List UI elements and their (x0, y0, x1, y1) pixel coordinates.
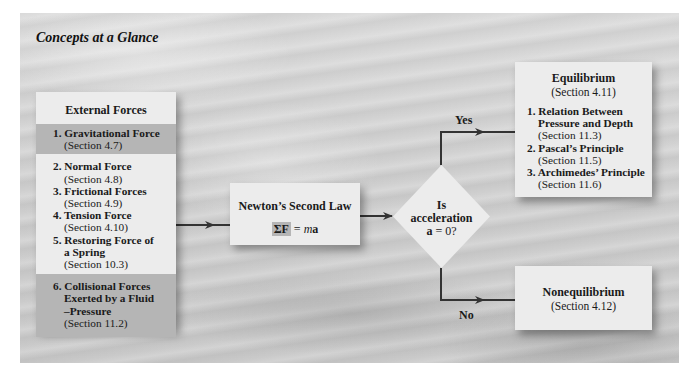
nonequilibrium-box: Nonequilibrium (Section 4.12) (515, 266, 652, 330)
decision-diamond: Is acceleration a = 0? (393, 165, 490, 268)
force-label-cont: Exerted by a Fluid (53, 292, 172, 304)
force-section: (Section 11.2) (53, 317, 172, 329)
force-label: 3. Frictional Forces (53, 185, 147, 197)
equilibrium-box: Equilibrium (Section 4.11) 1. Relation B… (515, 62, 652, 197)
force-section: (Section 4.9) (53, 197, 172, 209)
decision-line3: a = 0? (393, 225, 490, 238)
equilibrium-section: (Section 4.11) (515, 86, 652, 98)
force-section: (Section 4.10) (53, 221, 172, 233)
force-item-normal: 2. Normal Force (Section 4.8) (53, 160, 172, 184)
newton-formula: ΣF = ma (230, 222, 360, 237)
force-item-frictional: 3. Frictional Forces (Section 4.9) (53, 185, 172, 209)
nonequilibrium-section: (Section 4.12) (515, 300, 652, 312)
force-label: 2. Normal Force (53, 160, 132, 172)
force-label: 6. Collisional Forces (53, 280, 150, 292)
force-items-group: 2. Normal Force (Section 4.8) 3. Frictio… (36, 154, 176, 274)
force-label: 4. Tension Force (53, 209, 132, 221)
item-label: 3. Archimedes’ Principle (527, 166, 645, 178)
force-section: (Section 10.3) (53, 258, 172, 270)
force-label-cont: a Spring (53, 246, 172, 258)
external-forces-header: External Forces (36, 92, 176, 124)
force-label-cont2: –Pressure (53, 305, 172, 317)
newton-second-law-box: Newton’s Second Law ΣF = ma (230, 183, 360, 245)
formula-equals: = (291, 222, 304, 236)
arrow-yes-to-equilibrium (441, 132, 515, 165)
force-section: (Section 4.7) (53, 139, 172, 151)
decision-text: Is acceleration a = 0? (393, 199, 490, 238)
force-item-tension: 4. Tension Force (Section 4.10) (53, 209, 172, 233)
external-forces-box: External Forces 1. Gravitational Force (… (36, 92, 176, 330)
item-section: (Section 11.5) (527, 154, 652, 166)
force-label: 1. Gravitational Force (53, 127, 160, 139)
force-item-gravitational: 1. Gravitational Force (Section 4.7) (36, 124, 176, 154)
formula-m: m (304, 222, 313, 236)
arrow-no-to-nonequilibrium (441, 268, 515, 300)
item-label-cont: Pressure and Depth (527, 117, 652, 129)
item-section: (Section 11.6) (527, 178, 652, 190)
item-label: 1. Relation Between (527, 105, 623, 117)
equilibrium-list: 1. Relation Between Pressure and Depth (… (515, 105, 652, 190)
formula-a: a (312, 222, 318, 236)
item-label: 2. Pascal’s Principle (527, 142, 624, 154)
equilibrium-item: 3. Archimedes’ Principle (Section 11.6) (527, 166, 652, 190)
newton-title: Newton’s Second Law (230, 183, 360, 214)
nonequilibrium-title: Nonequilibrium (515, 266, 652, 300)
decision-eq: = 0? (432, 224, 456, 238)
yes-label: Yes (455, 113, 472, 128)
equilibrium-item: 2. Pascal’s Principle (Section 11.5) (527, 142, 652, 166)
force-item-spring: 5. Restoring Force of a Spring (Section … (53, 234, 172, 271)
force-label: 5. Restoring Force of (53, 234, 154, 246)
formula-sigma-f: ΣF (272, 222, 291, 236)
force-item-collisional: 6. Collisional Forces Exerted by a Fluid… (36, 274, 176, 337)
item-section: (Section 11.3) (527, 129, 652, 141)
equilibrium-title: Equilibrium (515, 62, 652, 86)
force-section: (Section 4.8) (53, 173, 172, 185)
no-label: No (459, 308, 474, 323)
equilibrium-item: 1. Relation Between Pressure and Depth (… (527, 105, 652, 142)
